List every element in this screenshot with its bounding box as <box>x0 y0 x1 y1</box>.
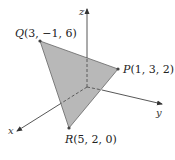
triangle-PQR <box>40 41 118 128</box>
x-axis-label: x <box>8 125 14 136</box>
y-axis <box>102 90 162 104</box>
vertex-R <box>67 126 70 129</box>
label-Q: Q(3, −1, 6) <box>15 27 77 40</box>
diagram-canvas: z x y Q(3, −1, 6) P(1, 3, 2) R(5, 2, 0) <box>0 0 175 160</box>
label-R: R(5, 2, 0) <box>64 133 117 146</box>
y-axis-label: y <box>155 107 162 118</box>
vertex-P <box>116 67 119 70</box>
z-axis-label: z <box>78 6 85 17</box>
label-P: P(1, 3, 2) <box>122 63 174 76</box>
x-axis <box>17 104 60 131</box>
